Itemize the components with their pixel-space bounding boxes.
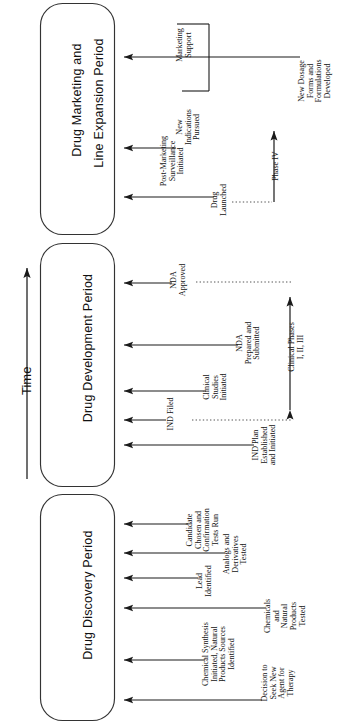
annotation-phase-iv: Phase IV — [272, 136, 281, 196]
phase-title-marketing-line2: Line Expansion Period — [93, 13, 107, 193]
annotation-clinical-studies-initiated: ClinicalStudiesInitiated — [203, 354, 229, 420]
phase-box-discovery — [41, 495, 115, 721]
annotation-ind-plan-established: IND PlanEstablishedand Initiated — [252, 405, 278, 485]
annotation-chemicals-natural-products: ChemicalsandNaturalProductsTested — [264, 580, 308, 652]
annotation-nda-prepared-submitted: NDAPrepared andSubmitted — [236, 304, 262, 382]
phase-title-development: Drug Development Period — [82, 253, 96, 443]
annotation-post-marketing-surveillance: Post-MarketingSurveillanceInitiated — [160, 117, 186, 205]
annotation-lead-identified: LeadIdentified — [196, 551, 213, 611]
annotation-marketing-support: MarketingSupport — [176, 10, 193, 80]
phase-box-development — [41, 244, 115, 487]
phase-title-marketing-line1: Drug Marketing and — [71, 15, 85, 185]
annotation-new-dosage-forms: New DosageForms andFormulationsDeveloped — [298, 40, 333, 122]
annotation-chemical-synthesis: Chemical SynthesisInitiated, NaturalProd… — [202, 608, 237, 700]
development-event-arrows — [124, 283, 254, 445]
annotation-analogs-derivatives: Analogs andDerivativesTested — [223, 518, 249, 590]
annotation-clinical-phases: Clinical PhasesI, II, III — [288, 306, 305, 388]
annotation-nda-approved: NDAApproved — [170, 249, 187, 311]
time-axis-label: Time — [20, 367, 34, 395]
annotation-ind-filed: IND Filed — [167, 385, 176, 443]
figure-canvas: Time Drug Marketing and Line Expansion P… — [0, 0, 338, 725]
annotation-drug-launched: DrugLaunched — [211, 170, 228, 230]
phase-title-discovery: Drug Discovery Period — [82, 510, 96, 680]
annotation-decision-seek-new-agent: Decision toSeek NewAgent forTherapy — [261, 647, 296, 719]
